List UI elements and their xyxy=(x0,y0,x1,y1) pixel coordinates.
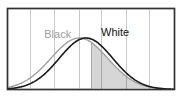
white-label: White xyxy=(101,26,129,38)
distribution-chart: Black White xyxy=(0,0,179,98)
black-label: Black xyxy=(44,28,71,40)
